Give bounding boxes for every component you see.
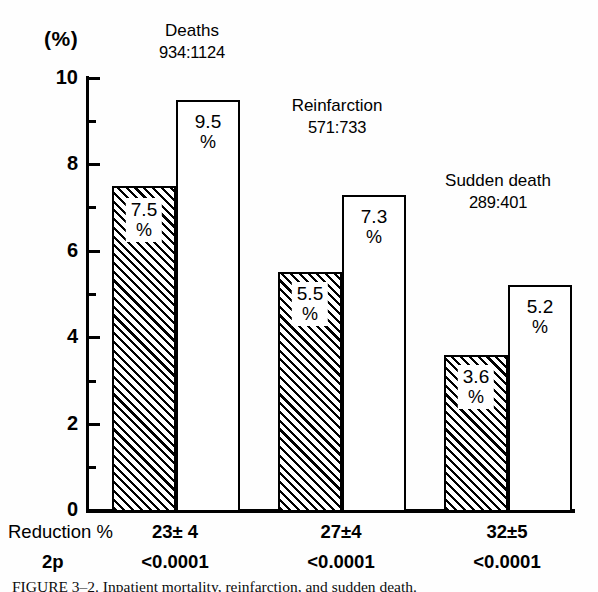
bar-deaths-control: 9.5 %: [176, 100, 240, 512]
figure-caption: FIGURE 3–2. Inpatient mortality, reinfar…: [12, 578, 586, 592]
bar-value-unit: %: [131, 220, 157, 240]
y-tick-minor-1: [89, 466, 96, 469]
p-row-label: 2p: [42, 551, 64, 573]
bar-value-unit: %: [195, 132, 221, 152]
group-title-reinfarction-text: Reinfarction: [292, 96, 383, 115]
y-tick-minor-3: [89, 380, 96, 383]
y-tick-2: [89, 423, 100, 426]
y-label-2: 2: [38, 412, 78, 435]
bar-value-text: 5.2: [527, 296, 553, 317]
y-tick-8: [89, 163, 100, 166]
group-ratio-reinfarction: 571:733: [254, 117, 420, 138]
group-title-deaths-text: Deaths: [165, 21, 219, 40]
p-value-sudden-death: <0.0001: [473, 551, 540, 573]
y-axis-unit-label: (%): [44, 27, 78, 51]
bar-value-unit: %: [361, 227, 387, 247]
bar-value-deaths-treated: 7.5 %: [126, 198, 162, 242]
chart-canvas: (%) Deaths 934:1124 Reinfarction 571:733…: [0, 0, 598, 592]
bar-value-text: 7.3: [361, 206, 387, 227]
bar-sudden-death-control: 5.2 %: [508, 285, 572, 512]
reduction-value-reinfarction: 27±4: [320, 521, 361, 543]
y-label-6: 6: [38, 239, 78, 262]
group-title-sudden-death-text: Sudden death: [445, 171, 551, 190]
bar-value-unit: %: [297, 304, 323, 324]
bar-value-sudden-death-treated: 3.6 %: [458, 365, 494, 409]
bar-value-text: 3.6: [463, 366, 489, 387]
bar-value-deaths-control: 9.5 %: [192, 110, 224, 153]
bar-value-reinfarction-treated: 5.5 %: [292, 282, 328, 326]
y-tick-4: [89, 336, 100, 339]
bar-value-unit: %: [527, 317, 553, 337]
y-tick-minor-7: [89, 206, 96, 209]
y-tick-6: [89, 250, 100, 253]
y-label-10: 10: [38, 66, 78, 89]
group-title-sudden-death: Sudden death 289:401: [410, 170, 586, 213]
reduction-row-label: Reduction %: [8, 521, 113, 543]
y-tick-minor-5: [89, 293, 96, 296]
group-title-deaths: Deaths 934:1124: [118, 20, 266, 63]
reduction-value-deaths: 23± 4: [152, 521, 198, 543]
bar-value-sudden-death-control: 5.2 %: [524, 295, 556, 338]
reduction-value-sudden-death: 32±5: [486, 521, 527, 543]
bar-value-text: 5.5: [297, 283, 323, 304]
p-value-reinfarction: <0.0001: [307, 551, 374, 573]
bar-value-text: 7.5: [131, 199, 157, 220]
p-value-deaths: <0.0001: [141, 551, 208, 573]
bar-sudden-death-treated: 3.6 %: [444, 355, 508, 512]
group-ratio-sudden-death: 289:401: [410, 192, 586, 213]
bar-reinfarction-control: 7.3 %: [342, 195, 406, 512]
y-label-0: 0: [38, 498, 78, 521]
bar-deaths-treated: 7.5 %: [112, 186, 176, 512]
y-label-4: 4: [38, 325, 78, 348]
bar-reinfarction-treated: 5.5 %: [278, 272, 342, 512]
y-tick-minor-9: [89, 120, 96, 123]
bar-value-unit: %: [463, 387, 489, 407]
y-label-8: 8: [38, 152, 78, 175]
group-ratio-deaths: 934:1124: [118, 42, 266, 63]
group-title-reinfarction: Reinfarction 571:733: [254, 95, 420, 138]
y-tick-10: [89, 77, 100, 80]
bar-value-reinfarction-control: 7.3 %: [358, 205, 390, 248]
bar-value-text: 9.5: [195, 111, 221, 132]
